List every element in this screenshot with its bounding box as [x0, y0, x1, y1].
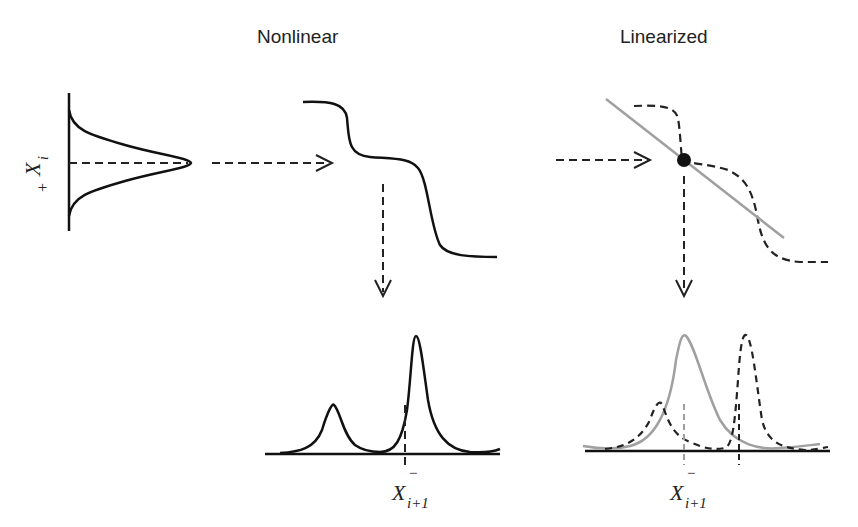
input-state-subscript: i [36, 156, 51, 160]
linearized-output: X i+1 − [583, 335, 830, 511]
linearized-output-superscript: − [687, 465, 695, 481]
arrow-to-nonlinear [212, 155, 332, 171]
output-state-superscript: − [409, 465, 417, 481]
linearized-function [606, 99, 828, 296]
arrow-to-linearized [556, 152, 650, 168]
input-gaussian: X i + [20, 93, 191, 231]
nonlinear-function [303, 102, 497, 296]
input-state-label: X [20, 161, 45, 177]
input-state-superscript: + [34, 183, 51, 192]
linearized-output-subscript: i+1 [685, 495, 707, 511]
output-state-subscript: i+1 [407, 495, 429, 511]
output-state-label: X [391, 480, 407, 505]
operating-point [677, 153, 691, 167]
nonlinear-output: X i+1 − [265, 336, 500, 511]
linearized-output-label: X [669, 480, 685, 505]
diagram-canvas: X i + X i+1 − [0, 0, 858, 527]
